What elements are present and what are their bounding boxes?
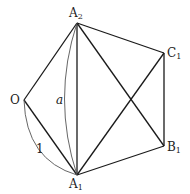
arc-a: [65, 23, 78, 175]
geometry-figure: A2 A1 C1 B1 O a 1: [0, 0, 190, 194]
label-A1: A1: [68, 177, 83, 192]
label-B1: B1: [167, 140, 181, 155]
segment-A2-C1: [77, 23, 164, 53]
segment-O-A2: [24, 23, 77, 100]
label-C1: C1: [167, 46, 181, 61]
label-A2: A2: [68, 6, 83, 21]
label-O: O: [10, 93, 20, 107]
arcs: [24, 23, 77, 175]
label-arc-1: 1: [36, 142, 44, 156]
segment-A2-B1: [77, 23, 164, 146]
labels: A2 A1 C1 B1 O a 1: [10, 6, 181, 192]
segment-A1-C1: [77, 53, 164, 175]
segment-A1-B1: [77, 146, 164, 175]
segments: [24, 23, 164, 175]
label-arc-a: a: [56, 93, 63, 107]
